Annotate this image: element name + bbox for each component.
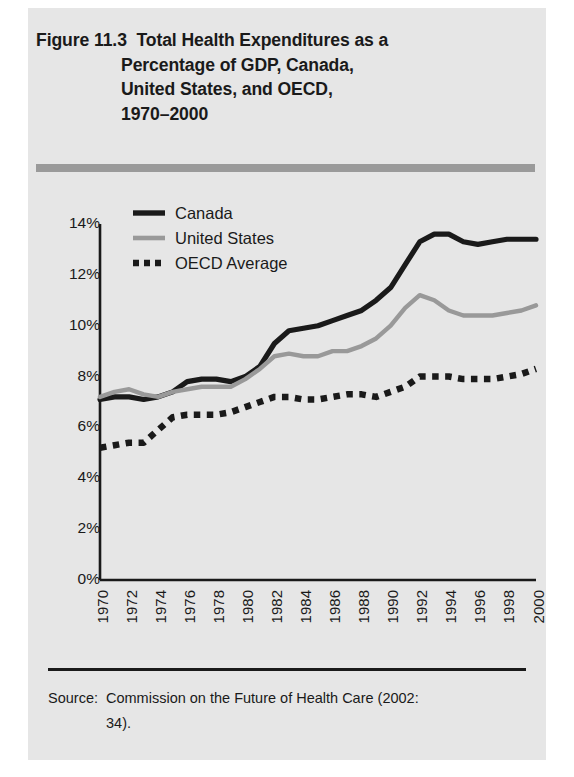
title-line-3: United States, and OECD, <box>36 77 536 102</box>
title-line-1: Figure 11.3 Total Health Expenditures as… <box>36 28 536 53</box>
x-tick-label: 1986 <box>327 590 342 623</box>
figure-panel: Figure 11.3 Total Health Expenditures as… <box>28 8 546 760</box>
y-tick-label: 14% <box>52 216 100 230</box>
x-tick-label: 1974 <box>153 590 168 623</box>
legend-item: OECD Average <box>132 250 382 275</box>
x-tick-label: 1982 <box>269 590 284 623</box>
y-tick-label: 8% <box>52 369 100 383</box>
x-tick-label: 1988 <box>356 590 371 623</box>
y-tick-label: 12% <box>52 267 100 281</box>
title-divider-rule <box>36 164 535 172</box>
source-text: Commission on the Future of Health Care … <box>106 686 528 711</box>
y-tick-label: 4% <box>52 470 100 484</box>
legend-item: United States <box>132 225 382 250</box>
x-tick-label: 1996 <box>472 590 487 623</box>
source-divider-rule <box>48 668 526 671</box>
x-tick-label: 1980 <box>240 590 255 623</box>
series-line-united-states <box>100 295 536 397</box>
x-tick-label: 1990 <box>385 590 400 623</box>
x-tick-label: 1998 <box>501 590 516 623</box>
source-continuation: 34). <box>48 711 528 736</box>
source-first-row: Source: Commission on the Future of Heal… <box>48 686 528 711</box>
legend-label: United States <box>175 229 274 247</box>
source-note: Source: Commission on the Future of Heal… <box>48 686 528 736</box>
x-tick-label: 2000 <box>531 590 546 623</box>
legend-label: OECD Average <box>175 254 288 272</box>
chart-legend: CanadaUnited StatesOECD Average <box>132 200 382 275</box>
legend-label: Canada <box>175 204 233 222</box>
chart-area: 0%2%4%6%8%10%12%14% 19701972197419761978… <box>28 186 546 646</box>
x-tick-label: 1972 <box>124 590 139 623</box>
x-axis-tick-labels: 1970197219741976197819801982198419861988… <box>28 584 546 646</box>
source-label: Source: <box>48 686 106 711</box>
x-tick-label: 1976 <box>182 590 197 623</box>
y-tick-label: 2% <box>52 521 100 535</box>
x-tick-label: 1970 <box>95 590 110 623</box>
legend-swatch-united-states <box>132 230 166 246</box>
figure-title: Figure 11.3 Total Health Expenditures as… <box>36 28 536 126</box>
title-line-4: 1970–2000 <box>36 102 536 127</box>
x-tick-label: 1984 <box>298 590 313 623</box>
y-tick-label: 10% <box>52 318 100 332</box>
legend-swatch-canada <box>132 205 166 221</box>
y-tick-label: 6% <box>52 419 100 433</box>
title-line-2: Percentage of GDP, Canada, <box>36 53 536 78</box>
series-line-oecd-average <box>100 369 536 448</box>
figure-root: Figure 11.3 Total Health Expenditures as… <box>0 0 574 777</box>
x-tick-label: 1994 <box>443 590 458 623</box>
legend-item: Canada <box>132 200 382 225</box>
x-tick-label: 1992 <box>414 590 429 623</box>
x-tick-label: 1978 <box>211 590 226 623</box>
y-axis-tick-labels: 0%2%4%6%8%10%12%14% <box>40 186 100 586</box>
legend-swatch-oecd-average <box>132 255 166 271</box>
